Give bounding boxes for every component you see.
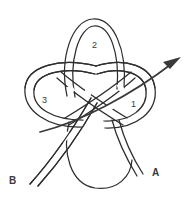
loop-label-2: 2 [92, 41, 97, 50]
loop-2-strand [65, 19, 125, 97]
loop-label-1: 1 [131, 100, 136, 109]
end-label-b: B [9, 176, 16, 186]
loop-label-3: 3 [42, 96, 47, 105]
knot-diagram-figure: 1 2 3 A B [0, 0, 190, 205]
over-strand-overdraw [25, 63, 155, 186]
knot-drawing [0, 0, 190, 205]
tail-to-a-strand [112, 120, 143, 176]
end-label-a: A [152, 168, 159, 178]
